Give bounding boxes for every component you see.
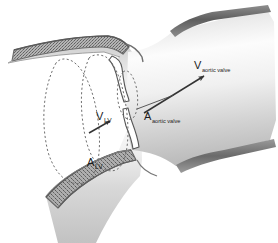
label-v-lv: V LV — [96, 110, 112, 124]
label-a-lv-subscript: LV — [95, 163, 103, 170]
label-v-aortic-valve-symbol: V — [194, 59, 202, 71]
label-v-lv-symbol: V — [96, 110, 104, 122]
figure-root: Left ventricular outflow tract and aorti… — [0, 0, 278, 243]
label-a-aortic-valve-subscript: aortic valve — [152, 118, 180, 124]
aorta — [126, 8, 276, 166]
label-v-aortic-valve-subscript: aortic valve — [202, 67, 230, 73]
label-a-lv-symbol: A — [87, 156, 95, 168]
label-a-aortic-valve-symbol: A — [144, 110, 152, 122]
aortic-valve-diagram: Left ventricular outflow tract and aorti… — [0, 0, 278, 243]
label-v-lv-subscript: LV — [104, 117, 112, 124]
